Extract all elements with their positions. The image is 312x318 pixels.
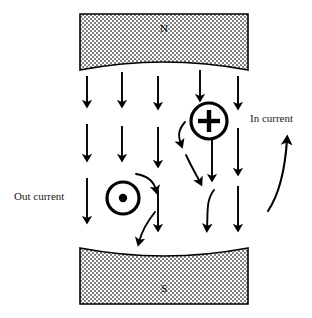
field-diagram-canvas: N S xyxy=(0,0,312,318)
south-pole-shape xyxy=(80,248,248,304)
field-arrow-curved xyxy=(139,212,155,242)
field-arrow-curved xyxy=(136,174,156,190)
south-pole-block: S xyxy=(80,248,248,304)
in-current-label: In current xyxy=(250,112,293,124)
lead-line xyxy=(268,140,287,211)
north-pole-letter: N xyxy=(160,22,168,34)
field-arrow-curved xyxy=(207,190,214,228)
field-arrow-curved xyxy=(179,122,185,144)
in-current-lead-arrow xyxy=(268,140,287,211)
magnetic-field-figure: N S xyxy=(0,0,312,318)
south-pole-letter: S xyxy=(161,282,167,294)
field-arrow-curved xyxy=(186,155,200,182)
north-pole-block: N xyxy=(80,14,248,70)
current-out-of-page-marker xyxy=(107,182,139,214)
dot-icon xyxy=(119,194,127,202)
out-current-label: Out current xyxy=(14,190,64,202)
positive-charge-marker xyxy=(191,103,227,139)
curved-field-arrows xyxy=(136,122,214,242)
